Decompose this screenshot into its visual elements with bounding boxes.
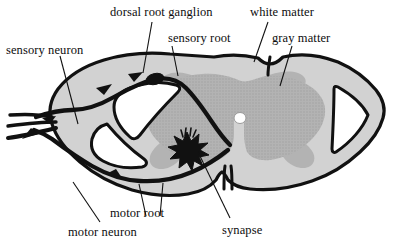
peripheral-nerve-fiber-upper <box>10 114 52 117</box>
label-sensory-neuron: sensory neuron <box>6 44 83 57</box>
label-motor-root: motor root <box>110 207 164 220</box>
leader-motor-neuron <box>73 182 100 222</box>
label-sensory-root: sensory root <box>168 32 231 45</box>
label-synapse: synapse <box>222 224 262 237</box>
label-dorsal-root-ganglion: dorsal root ganglion <box>110 6 213 19</box>
label-motor-neuron: motor neuron <box>68 226 137 239</box>
label-gray-matter: gray matter <box>272 32 330 45</box>
leader-white-matter <box>254 22 268 62</box>
spinal-cord-reflex-arc-figure: sensory neuron dorsal root ganglion sens… <box>0 0 401 243</box>
central-canal <box>234 113 246 124</box>
label-white-matter: white matter <box>250 6 314 19</box>
